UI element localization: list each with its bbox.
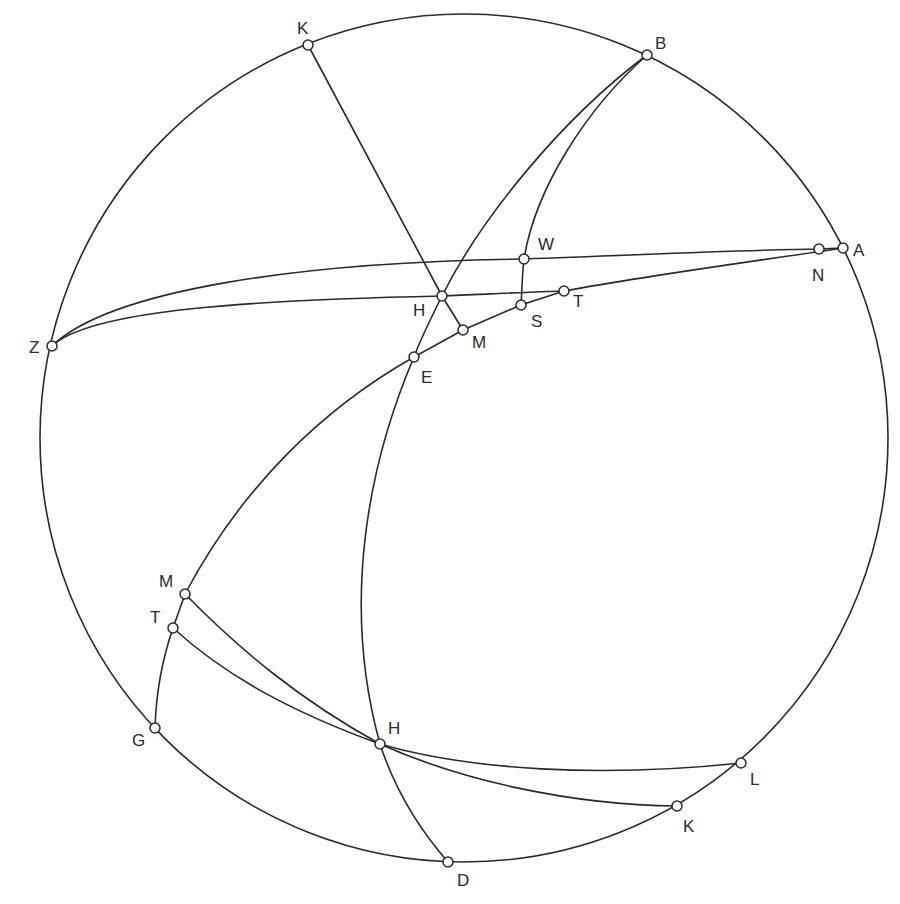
label-E: E	[421, 368, 432, 387]
arc-A-T-S-M-E-M	[185, 248, 843, 594]
outer-circle	[40, 14, 888, 862]
label-S: S	[531, 312, 542, 331]
label-N: N	[812, 266, 824, 285]
point-N	[814, 244, 824, 254]
label-L: L	[750, 770, 759, 789]
point-H_top	[437, 291, 447, 301]
label-B: B	[655, 34, 666, 53]
point-A	[838, 243, 848, 253]
point-L	[736, 758, 746, 768]
arc-H-K	[380, 744, 677, 806]
arc-M-H	[185, 594, 380, 744]
label-K_bot: K	[683, 817, 695, 836]
label-T_top: T	[573, 292, 583, 311]
label-K_top: K	[297, 19, 309, 38]
point-T_bot	[168, 623, 178, 633]
point-Z	[47, 341, 57, 351]
point-K_bot	[672, 801, 682, 811]
point-K_top	[303, 40, 313, 50]
arc-B-H-E-H-D	[361, 55, 647, 862]
point-B	[642, 50, 652, 60]
label-G: G	[132, 731, 145, 750]
point-D	[443, 857, 453, 867]
spherical-diagram: KBANWTSHMEZMTGHLKD	[0, 0, 900, 904]
point-M_top	[458, 325, 468, 335]
point-W	[519, 254, 529, 264]
point-H_bot	[375, 739, 385, 749]
label-M_top: M	[472, 333, 486, 352]
arc-H-L	[380, 744, 741, 771]
label-A: A	[853, 241, 865, 260]
label-H_bot: H	[388, 719, 400, 738]
point-E	[409, 352, 419, 362]
arc-Z-H-T	[52, 291, 564, 346]
point-S	[516, 300, 526, 310]
point-G	[150, 723, 160, 733]
arc-K-M	[308, 45, 463, 330]
point-T_top	[559, 286, 569, 296]
arc-B-W-S	[521, 55, 647, 305]
label-Z: Z	[29, 338, 39, 357]
label-M_bot: M	[159, 572, 173, 591]
label-D: D	[457, 871, 469, 890]
label-W: W	[538, 235, 554, 254]
label-T_bot: T	[150, 608, 160, 627]
points-layer	[47, 40, 848, 867]
label-H_top: H	[413, 301, 425, 320]
point-M_bot	[180, 589, 190, 599]
